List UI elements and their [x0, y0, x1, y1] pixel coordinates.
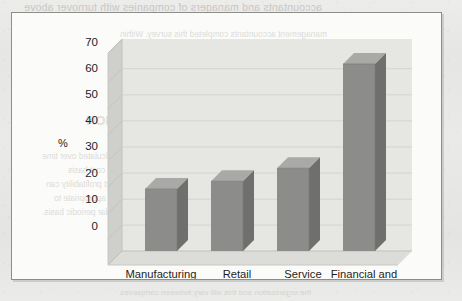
- bar-manufacturing: [145, 178, 188, 251]
- ytick-20: 20: [74, 167, 98, 179]
- ytick-0: 0: [74, 220, 98, 232]
- ytick-10: 10: [74, 193, 98, 205]
- bar-financial-and-commercial: [343, 53, 386, 251]
- figure-inner: management accountants completed this su…: [12, 13, 441, 279]
- ytick-50: 50: [74, 88, 98, 100]
- xtick-financial-and-commercial: Financial and commercial: [306, 268, 422, 279]
- bleed-through-footer: the organisation and this will vary betw…: [120, 288, 311, 297]
- bar-service: [277, 157, 320, 251]
- ytick-60: 60: [74, 62, 98, 74]
- ytick-70: 70: [74, 36, 98, 48]
- yaxis-title: %: [58, 137, 68, 149]
- bar-chart: 70 60 50 40 30 20 10 0 % Manufacturing R…: [12, 13, 441, 279]
- ytick-40: 40: [74, 114, 98, 126]
- bar-retail: [211, 170, 254, 251]
- ytick-30: 30: [74, 140, 98, 152]
- figure-frame: management accountants completed this su…: [11, 12, 442, 280]
